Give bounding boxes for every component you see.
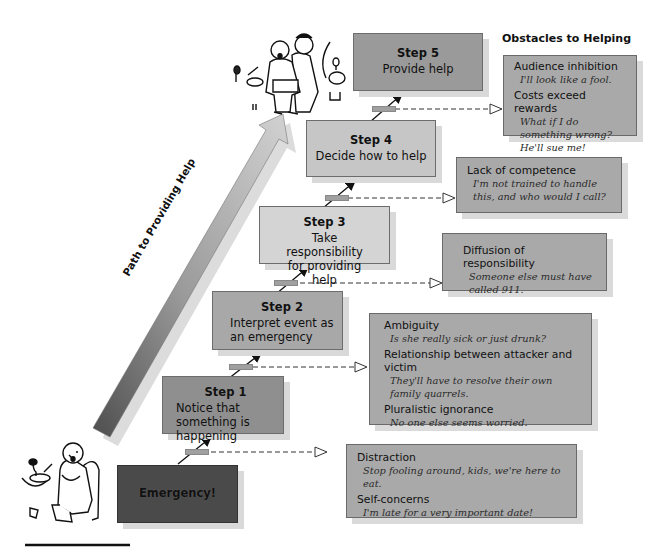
choking-man-illustration — [22, 443, 99, 522]
step-1-title: Step 1 — [176, 385, 275, 399]
obstacle-heading: Relationship between attacker and victim — [384, 348, 583, 374]
obstacle-heading: Diffusion of responsibility — [463, 244, 592, 270]
obstacle-quote: Is she really sick or just drunk? — [384, 332, 583, 345]
connector-stub-emergency — [185, 449, 209, 455]
obstacle-heading: Pluralistic ignorance — [384, 403, 583, 416]
obstacle-heading: Self-concerns — [357, 493, 570, 506]
obstacle-box-step-3: Diffusion of responsibility Someone else… — [442, 233, 607, 291]
obstacle-quote: I'm not trained to handle this, and who … — [467, 177, 613, 203]
step-5-desc: Provide help — [360, 62, 476, 76]
obstacle-quote: I'll look like a fool. — [514, 73, 628, 86]
step-1-desc: Notice that something is happening — [176, 401, 275, 443]
step-4-title: Step 4 — [313, 133, 429, 147]
obstacle-heading: Audience inhibition — [514, 60, 628, 73]
step-4-desc: Decide how to help — [313, 149, 429, 163]
step-3-box: Step 3 Take responsibility for providing… — [259, 206, 390, 264]
heimlich-illustration — [234, 34, 345, 114]
obstacle-heading: Distraction — [357, 451, 570, 464]
connector-stub-step1 — [229, 364, 253, 370]
connector-stub-step3 — [325, 195, 349, 201]
obstacle-quote: What if I do something wrong? He'll sue … — [514, 115, 628, 154]
obstacles-title: Obstacles to Helping — [502, 32, 631, 45]
obstacle-quote: No one else seems worried. — [384, 416, 583, 429]
step-2-desc: Interpret event as an emergency — [230, 316, 334, 344]
obstacle-quote: Someone else must have called 911. — [463, 270, 592, 296]
obstacle-box-step-4: Lack of competence I'm not trained to ha… — [456, 157, 622, 213]
emergency-box: Emergency! — [117, 465, 238, 523]
step-3-desc: Take responsibility for providing help — [268, 231, 381, 287]
obstacle-heading: Ambiguity — [384, 319, 583, 332]
connector-stub-step4 — [372, 106, 396, 112]
obstacle-box-step-2: Ambiguity Is she really sick or just dru… — [369, 313, 592, 425]
step-4-box: Step 4 Decide how to help — [306, 120, 436, 177]
step-2-title: Step 2 — [230, 300, 334, 314]
obstacle-heading: Lack of competence — [467, 164, 613, 177]
obstacle-quote: I'm late for a very important date! — [357, 506, 570, 519]
obstacle-quote: They'll have to resolve their own family… — [384, 374, 583, 400]
step-5-box: Step 5 Provide help — [353, 33, 483, 91]
step-3-title: Step 3 — [268, 215, 381, 229]
emergency-label: Emergency! — [118, 486, 237, 500]
obstacle-box-step-1: Distraction Stop fooling around, kids, w… — [346, 444, 577, 518]
helping-diagram: Path to Providing Help Emergency! Step 1… — [0, 0, 663, 552]
obstacle-heading: Costs exceed rewards — [514, 89, 628, 115]
step-1-box: Step 1 Notice that something is happenin… — [162, 376, 284, 434]
obstacle-quote: Stop fooling around, kids, we're here to… — [357, 464, 570, 490]
step-2-box: Step 2 Interpret event as an emergency — [212, 291, 343, 350]
obstacle-box-step-5: Audience inhibition I'll look like a foo… — [503, 55, 637, 136]
step-5-title: Step 5 — [360, 46, 476, 60]
